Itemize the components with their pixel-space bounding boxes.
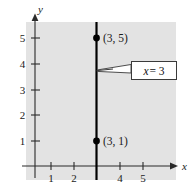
graph-vector-layer (0, 0, 195, 192)
y-axis-label: y (38, 4, 43, 15)
point-3-5 (93, 35, 100, 42)
y-tick-label-4: 4 (17, 59, 28, 70)
point-label-3-5: (3, 5) (103, 32, 128, 44)
equation-callout-text: x = 3 (132, 62, 176, 79)
point-label-3-1: (3, 1) (103, 135, 128, 147)
x-axis-label: x (182, 161, 187, 172)
x-tick-label-2: 2 (68, 173, 80, 184)
y-tick-label-2: 2 (17, 110, 28, 121)
y-tick-label-1: 1 (17, 136, 28, 147)
callout-pointer (97, 65, 131, 74)
y-tick-label-5: 5 (17, 33, 28, 44)
x-tick-label-4: 4 (114, 173, 126, 184)
x-tick-label-1: 1 (45, 173, 57, 184)
equation-remainder: = 3 (149, 65, 164, 77)
x-tick-label-5: 5 (137, 173, 149, 184)
x-axis (22, 163, 178, 170)
equation-callout-box: x = 3 (131, 61, 177, 80)
point-3-1 (93, 138, 100, 145)
graph-figure: 1 2 4 5 1 2 3 4 5 x y (3, 5) (3, 1) x = … (0, 0, 195, 192)
y-tick-label-3: 3 (17, 85, 28, 96)
